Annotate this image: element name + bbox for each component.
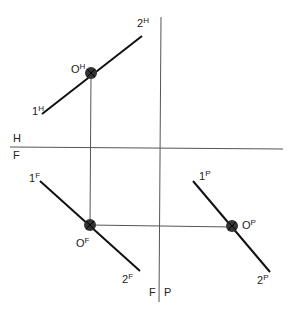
point-o-frontal-marker [84,219,96,231]
projector-h-f [90,73,91,225]
hf-fold-line [10,147,283,149]
label-2p: 2P [257,275,268,286]
fp-fold-line [159,17,161,302]
plane-label-fp-f: F [149,287,156,298]
label-op: OP [242,220,256,231]
label-1p: 1P [199,171,210,182]
projector-f-p [90,225,232,227]
label-1f: 1F [29,173,40,184]
diagram-lines [0,0,289,312]
plane-label-f: F [13,150,20,161]
plane-label-fp-p: P [164,287,171,298]
label-1h: 1H [32,106,44,117]
point-o-horizontal-marker [85,67,97,79]
label-2f: 2F [122,274,133,285]
label-2h: 2H [137,18,149,29]
label-of: OF [76,238,89,249]
plane-label-h: H [13,133,21,144]
orthographic-projection-diagram: H F F P 1H 2H OH 1F 2F OF 1P 2P OP [0,0,289,312]
point-o-profile-marker [226,220,238,232]
label-oh: OH [71,64,85,75]
